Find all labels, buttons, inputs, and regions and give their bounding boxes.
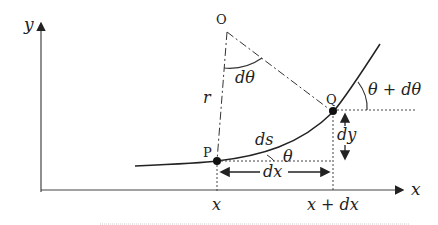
theta-arc [267, 155, 274, 161]
ds-label: ds [255, 130, 273, 149]
theta-plus-dtheta-label: θ + dθ [368, 80, 421, 99]
x-plus-dx-tick-label: x + dx [307, 195, 359, 214]
point-p [213, 157, 221, 165]
point-q [329, 107, 337, 115]
dy-label: dy [337, 125, 357, 144]
y-axis-label: y [23, 14, 34, 34]
dx-label: dx [263, 162, 282, 181]
radius-label: r [203, 88, 212, 107]
point-p-label: P [203, 145, 212, 160]
theta-label: θ [283, 147, 293, 166]
x-tick-label: x [212, 195, 221, 214]
curvature-diagram: y x O P Q r dθ θ θ + dθ ds dx dy x x + d… [0, 0, 438, 225]
point-q-label: Q [326, 92, 337, 107]
dtheta-label: dθ [235, 68, 255, 87]
dtheta-arc [224, 58, 262, 68]
radius-op [217, 32, 227, 161]
theta-dtheta-arc [358, 82, 367, 110]
x-axis-label: x [411, 179, 421, 199]
origin-label: O [216, 12, 227, 27]
